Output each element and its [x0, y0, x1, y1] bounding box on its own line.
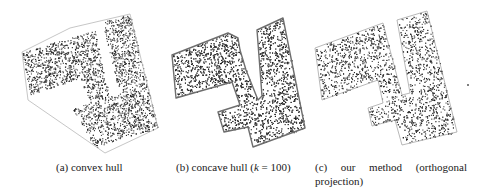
caption-c-label: (c) — [315, 160, 327, 174]
hull-outline — [315, 11, 457, 145]
caption-b-label: (b) — [176, 161, 189, 173]
stray-dot — [467, 84, 469, 86]
caption-a-label: (a) — [56, 161, 68, 173]
caption-c-word-3: (orthogonal — [416, 160, 467, 174]
orthogonal-projection-plot — [0, 0, 477, 160]
caption-b-text-prefix: concave hull ( — [192, 161, 254, 173]
caption-c-line2: projection) — [315, 174, 467, 188]
caption-c-word-2: method — [369, 160, 402, 174]
caption-a: (a) convex hull — [56, 160, 123, 174]
subfigure-c — [0, 0, 477, 160]
caption-c: (c) our method (orthogonal projection) — [315, 160, 467, 188]
caption-c-line1: (c) our method (orthogonal — [315, 160, 467, 174]
caption-b: (b) concave hull (k = 100) — [176, 160, 291, 174]
caption-a-text: convex hull — [71, 161, 123, 173]
caption-b-text-suffix: = 100) — [259, 161, 291, 173]
caption-c-word-1: our — [341, 160, 356, 174]
